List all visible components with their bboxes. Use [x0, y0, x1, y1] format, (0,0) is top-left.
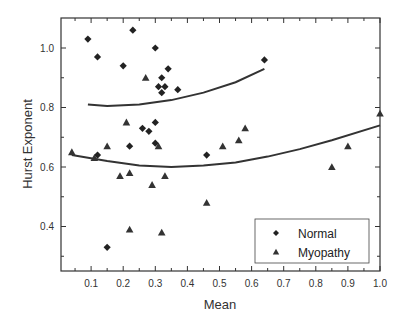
diamond-marker	[203, 152, 210, 159]
x-tick-label: 0.5	[213, 278, 227, 289]
legend-label-normal: Normal	[298, 227, 337, 241]
x-tick-label: 0.8	[309, 278, 323, 289]
diamond-marker	[158, 74, 165, 81]
x-tick-label: 0.1	[84, 278, 98, 289]
diamond-marker	[152, 119, 159, 126]
diamond-marker	[174, 86, 181, 93]
y-tick-label: 0.6	[40, 162, 54, 173]
legend: NormalMyopathy	[255, 219, 369, 263]
diamond-marker	[120, 62, 127, 69]
diamond-marker	[158, 89, 165, 96]
diamond-marker	[152, 44, 159, 51]
triangle-marker	[103, 142, 111, 149]
fit-curve-myopathy	[72, 125, 380, 167]
triangle-marker	[344, 142, 352, 149]
triangle-marker	[161, 172, 169, 179]
diamond-marker	[139, 125, 146, 132]
triangle-marker	[376, 110, 384, 117]
triangle-marker	[116, 172, 124, 179]
diamond-marker	[145, 128, 152, 135]
diamond-marker	[84, 35, 91, 42]
fit-curves	[72, 69, 380, 167]
y-tick-label: 0.8	[40, 102, 54, 113]
x-tick-label: 0.4	[180, 278, 194, 289]
x-tick-label: 0.2	[116, 278, 130, 289]
x-tick-label: 1.0	[373, 278, 387, 289]
diamond-marker	[261, 56, 268, 63]
diamond-marker	[104, 244, 111, 251]
scatter-chart: 0.10.20.30.40.50.60.70.80.91.0 0.40.60.8…	[0, 0, 405, 322]
triangle-marker	[241, 125, 249, 132]
triangle-marker	[148, 181, 156, 188]
y-tick-label: 0.4	[40, 221, 54, 232]
triangle-marker	[123, 119, 131, 126]
triangle-marker	[235, 136, 243, 143]
triangle-marker	[203, 199, 211, 206]
diamond-marker	[126, 143, 133, 150]
fit-curve-normal	[88, 69, 265, 106]
x-tick-label: 0.9	[341, 278, 355, 289]
triangle-marker	[142, 74, 150, 81]
triangle-marker	[68, 148, 76, 155]
x-tick-label: 0.3	[148, 278, 162, 289]
legend-label-myopathy: Myopathy	[298, 246, 350, 260]
x-tick-label: 0.6	[245, 278, 259, 289]
triangle-marker	[328, 163, 336, 170]
diamond-marker	[161, 83, 168, 90]
y-tick-label: 1.0	[40, 43, 54, 54]
triangle-marker	[126, 169, 134, 176]
triangle-marker	[219, 142, 227, 149]
x-tick-label: 0.7	[277, 278, 291, 289]
y-axis-title: Hurst Exponent	[20, 99, 35, 189]
triangle-marker	[158, 229, 166, 236]
diamond-marker	[129, 27, 136, 34]
triangle-marker	[126, 226, 134, 233]
diamond-marker	[165, 65, 172, 72]
diamond-marker	[94, 53, 101, 60]
x-axis-title: Mean	[204, 297, 237, 312]
diamond-marker	[155, 83, 162, 90]
